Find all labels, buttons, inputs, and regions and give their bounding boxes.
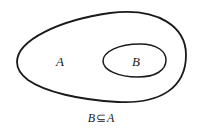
- set-b-label: B: [132, 54, 140, 69]
- set-a-outline: [17, 12, 186, 102]
- caption-symbol: ⊆: [96, 111, 106, 125]
- set-a-label: A: [55, 54, 64, 69]
- venn-diagram: A B B⊆A: [0, 0, 201, 135]
- subset-caption: B⊆A: [88, 111, 115, 125]
- caption-right: A: [106, 111, 115, 125]
- caption-left: B: [88, 111, 96, 125]
